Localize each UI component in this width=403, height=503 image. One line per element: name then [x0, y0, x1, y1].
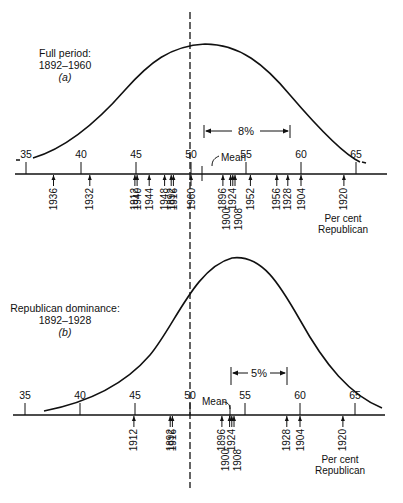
- election-label-1960: 1960: [186, 188, 197, 211]
- election-label-1908: 1908: [232, 449, 243, 472]
- election-label-1940: 1940: [132, 188, 143, 211]
- panel-a-curve: [33, 44, 360, 162]
- panel-a-range-annotation: 8%: [204, 125, 290, 138]
- tick-label-35: 35: [20, 148, 32, 160]
- panel-b-axis-label-line1: Per cent: [321, 454, 358, 465]
- election-label-1932: 1932: [84, 188, 95, 211]
- election-label-1928: 1928: [282, 188, 293, 211]
- tick-label-35: 35: [19, 389, 31, 401]
- panel-a-curve-end-right: [362, 162, 366, 163]
- tick-label-60: 60: [295, 148, 307, 160]
- election-label-1920: 1920: [338, 188, 349, 211]
- panel-a-mean-marker: Mean: [202, 152, 246, 181]
- election-label-1956: 1956: [271, 188, 282, 211]
- chart-canvas: 35404550556065 35404550556065 1936193219…: [0, 0, 403, 503]
- panel-a-axis-ticks: 35404550556065: [20, 148, 362, 174]
- panel-b-range-label: 5%: [251, 367, 267, 379]
- election-label-1924: 1924: [226, 429, 237, 452]
- panel-a-range-label: 8%: [238, 125, 254, 137]
- tick-label-40: 40: [74, 389, 86, 401]
- panel-b-mean-label: Mean: [202, 396, 227, 407]
- election-label-1908: 1908: [233, 208, 244, 231]
- tick-label-65: 65: [350, 148, 362, 160]
- election-label-1912: 1912: [128, 429, 139, 452]
- election-label-1936: 1936: [48, 188, 59, 211]
- tick-label-55: 55: [239, 389, 251, 401]
- election-label-1944: 1944: [144, 188, 155, 211]
- tick-label-50: 50: [185, 148, 197, 160]
- panel-a-axis-label-line2: Republican: [318, 224, 368, 235]
- tick-label-40: 40: [75, 148, 87, 160]
- panel-b-curve: [44, 258, 382, 411]
- tick-label-45: 45: [129, 389, 141, 401]
- tick-label-45: 45: [130, 148, 142, 160]
- election-label-1920: 1920: [337, 429, 348, 452]
- tick-label-50: 50: [184, 389, 196, 401]
- election-label-1952: 1952: [245, 188, 256, 211]
- panel-a-election-markers: 1936193219121940194419481892191619601896…: [48, 175, 349, 230]
- election-label-1916: 1916: [168, 188, 179, 211]
- panel-a-axis-label-line1: Per cent: [324, 213, 361, 224]
- panel-b-mean-marker: Mean: [202, 396, 230, 420]
- election-label-1916: 1916: [167, 429, 178, 452]
- panel-b-axis-label-line2: Republican: [315, 465, 365, 476]
- tick-label-60: 60: [294, 389, 306, 401]
- panel-b-election-markers: 1912189219161896190019241908192819041920: [128, 416, 348, 471]
- election-label-1904: 1904: [295, 429, 306, 452]
- panel-b-range-annotation: 5%: [231, 367, 287, 385]
- tick-label-65: 65: [349, 389, 361, 401]
- election-label-1904: 1904: [296, 188, 307, 211]
- panel-a-mean-label: Mean: [221, 152, 246, 163]
- election-label-1928: 1928: [281, 429, 292, 452]
- election-label-1924: 1924: [227, 188, 238, 211]
